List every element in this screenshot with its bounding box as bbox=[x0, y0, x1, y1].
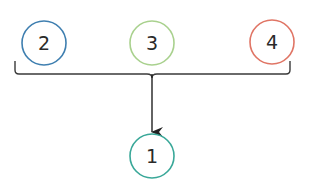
node-2: 2 bbox=[22, 21, 66, 65]
node-3-label: 3 bbox=[146, 32, 158, 54]
diagram-canvas: 2 3 4 1 bbox=[0, 0, 319, 184]
node-4-label: 4 bbox=[266, 31, 278, 53]
node-3: 3 bbox=[130, 21, 174, 65]
node-4: 4 bbox=[250, 20, 294, 64]
node-1: 1 bbox=[130, 134, 174, 178]
node-1-label: 1 bbox=[146, 145, 158, 167]
node-2-label: 2 bbox=[38, 32, 50, 54]
